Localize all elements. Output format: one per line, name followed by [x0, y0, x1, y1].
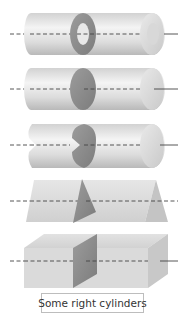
- right-cylinders-figure: Some right cylinders: [0, 0, 186, 321]
- figure-caption: Some right cylinders: [41, 293, 144, 313]
- rectangular-prism-shape: [10, 234, 178, 288]
- solid-cylinder-shape: [10, 68, 178, 110]
- figure-canvas: [0, 0, 186, 321]
- lobed-cylinder-shape: [10, 124, 178, 168]
- triangular-prism-shape: [10, 179, 178, 223]
- hollow-cylinder-shape: [10, 13, 178, 55]
